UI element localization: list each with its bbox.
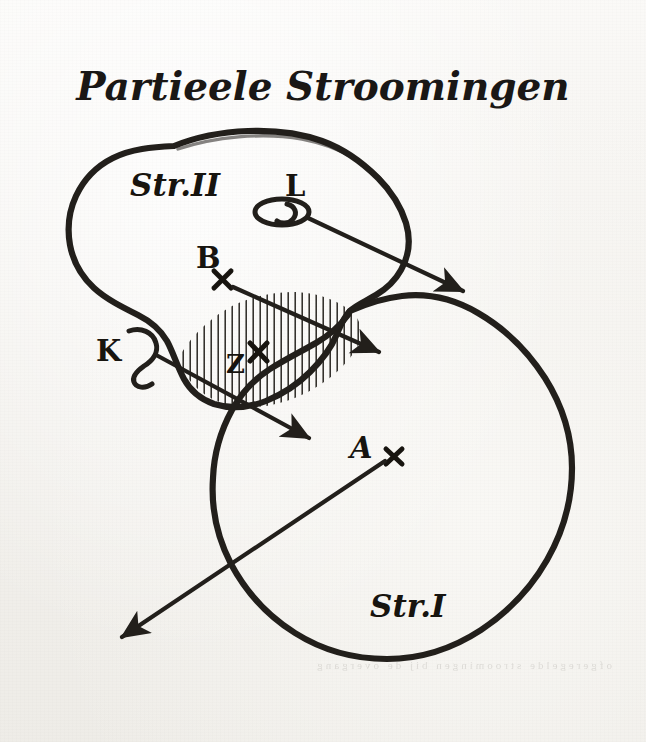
- k-loop-marker: [129, 330, 157, 388]
- region-label-str1: Str.I: [370, 588, 447, 624]
- point-label-b: B: [196, 241, 221, 275]
- point-label-z: Z: [226, 349, 245, 379]
- l-loop-tail: [277, 204, 295, 223]
- b-cross-marker: [214, 271, 231, 288]
- point-label-a: A: [347, 431, 373, 465]
- flow-arrow-a: [122, 461, 385, 637]
- flow-arrow-l: [308, 218, 463, 291]
- diagram-canvas: Partieele Stroomingen K L B Z A Str.II: [0, 0, 646, 742]
- region-label-str2: Str.II: [130, 167, 221, 203]
- page-title: Partieele Stroomingen: [75, 63, 569, 109]
- a-cross-marker: [386, 449, 402, 464]
- point-label-k: K: [96, 334, 123, 368]
